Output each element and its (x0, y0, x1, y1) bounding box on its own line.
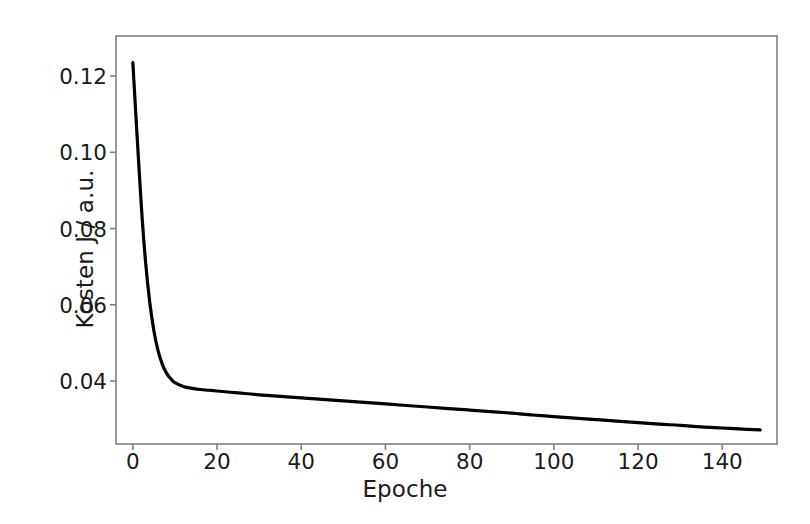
x-tick-label: 80 (456, 449, 483, 474)
y-axis-label-container: Kosten J / a.u. (72, 39, 102, 459)
x-tick-label: 60 (372, 449, 399, 474)
chart-figure: 0204060801001201400.040.060.080.100.12 E… (0, 0, 810, 524)
x-tick-label: 40 (288, 449, 315, 474)
plot-canvas (0, 0, 810, 524)
x-tick-label: 0 (126, 449, 140, 474)
x-tick-label: 140 (702, 449, 743, 474)
x-tick-label: 120 (618, 449, 659, 474)
y-axis-label: Kosten J / a.u. (72, 170, 98, 329)
x-tick-label: 20 (203, 449, 230, 474)
x-tick-label: 100 (533, 449, 574, 474)
x-axis-label: Epoche (0, 476, 810, 502)
plot-background (116, 36, 777, 444)
